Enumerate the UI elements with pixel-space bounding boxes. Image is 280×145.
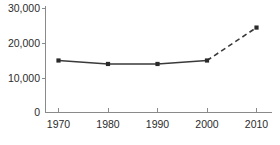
series-line-dashed-projection xyxy=(207,28,257,61)
x-tick-label-1990: 1990 xyxy=(146,118,170,130)
data-point-2000 xyxy=(205,58,209,62)
x-tick-label-1970: 1970 xyxy=(47,118,71,130)
y-tick-label-30000: 30,000 xyxy=(8,2,40,14)
y-tick-label-0: 0 xyxy=(34,106,40,118)
data-point-2010 xyxy=(254,25,258,29)
x-tick-label-2010: 2010 xyxy=(245,118,269,130)
data-point-1990 xyxy=(155,62,159,66)
x-tick-label-1980: 1980 xyxy=(96,118,120,130)
data-point-1980 xyxy=(106,62,110,66)
y-tick-label-20000: 20,000 xyxy=(8,37,40,49)
chart-canvas: 30,000 20,000 10,000 0 1970 1980 1990 20… xyxy=(0,0,280,145)
x-tick-label-2000: 2000 xyxy=(195,118,219,130)
line-chart: 30,000 20,000 10,000 0 1970 1980 1990 20… xyxy=(0,0,280,145)
y-tick-label-10000: 10,000 xyxy=(8,72,40,84)
data-point-1970 xyxy=(56,58,60,62)
series-line-solid xyxy=(59,61,208,64)
